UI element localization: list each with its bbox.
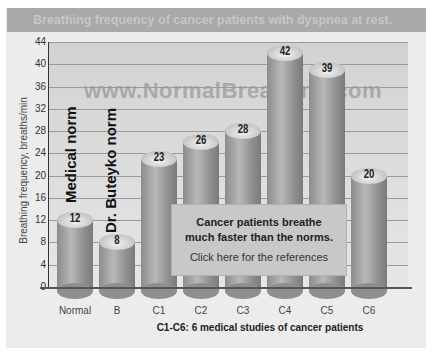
bar-base [225, 283, 261, 299]
x-tick-label: C2 [179, 305, 223, 316]
y-tick-label: 12 [26, 214, 46, 225]
y-tick-label: 44 [26, 36, 46, 47]
bar-c6: 20 [351, 176, 387, 291]
x-axis [40, 287, 412, 289]
bar-normal: 12 [57, 220, 93, 291]
x-tick-label: C1 [137, 305, 181, 316]
y-axis-label: Breathing frequency, breaths/min [18, 96, 29, 246]
x-axis-label: C1-C6: 6 medical studies of cancer patie… [110, 322, 410, 333]
bar-value-label: 12 [61, 211, 90, 225]
y-tick-label: 24 [26, 147, 46, 158]
y-tick-label: 4 [26, 259, 46, 270]
bar-value-label: 23 [145, 150, 174, 164]
bar-b: 8 [99, 242, 135, 291]
x-tick-label: C6 [347, 305, 391, 316]
bar-base [309, 283, 345, 299]
y-tick-label: 8 [26, 236, 46, 247]
callout-line-2: much faster than the norms. [172, 230, 346, 245]
bar-value-label: 26 [187, 133, 216, 147]
callout-text: Cancer patients breathe much faster than… [172, 215, 346, 245]
y-axis [48, 42, 49, 288]
y-tick-label: 32 [26, 103, 46, 114]
x-tick-label: C4 [263, 305, 307, 316]
bar-value-label: 42 [271, 44, 300, 58]
bar-base [267, 283, 303, 299]
bar-value-label: 39 [313, 61, 342, 75]
x-tick-label: C5 [305, 305, 349, 316]
medical-norm-label: Medical norm [62, 106, 79, 203]
y-tick-label: 36 [26, 81, 46, 92]
bar-base [99, 283, 135, 299]
references-link[interactable]: Click here for the references [172, 251, 346, 263]
x-tick-label: Normal [53, 305, 97, 316]
gridline [48, 42, 408, 43]
y-tick-label: 20 [26, 170, 46, 181]
bar-base [57, 283, 93, 299]
y-tick-label: 40 [26, 58, 46, 69]
chart-title: Breathing frequency of cancer patients w… [7, 8, 426, 32]
bar-base [141, 283, 177, 299]
bar-value-label: 28 [229, 122, 258, 136]
y-tick-label: 16 [26, 192, 46, 203]
callout-line-1: Cancer patients breathe [172, 215, 346, 230]
bar-base [351, 283, 387, 299]
y-tick-label: 28 [26, 125, 46, 136]
buteyko-norm-label: Dr. Buteyko norm [102, 108, 119, 233]
x-tick-label: B [95, 305, 139, 316]
bar-base [183, 283, 219, 299]
bar-value-label: 8 [103, 233, 132, 247]
x-tick-label: C3 [221, 305, 265, 316]
references-callout[interactable]: Cancer patients breathe much faster than… [171, 204, 347, 276]
bar-value-label: 20 [355, 167, 384, 181]
gridline [48, 64, 408, 65]
